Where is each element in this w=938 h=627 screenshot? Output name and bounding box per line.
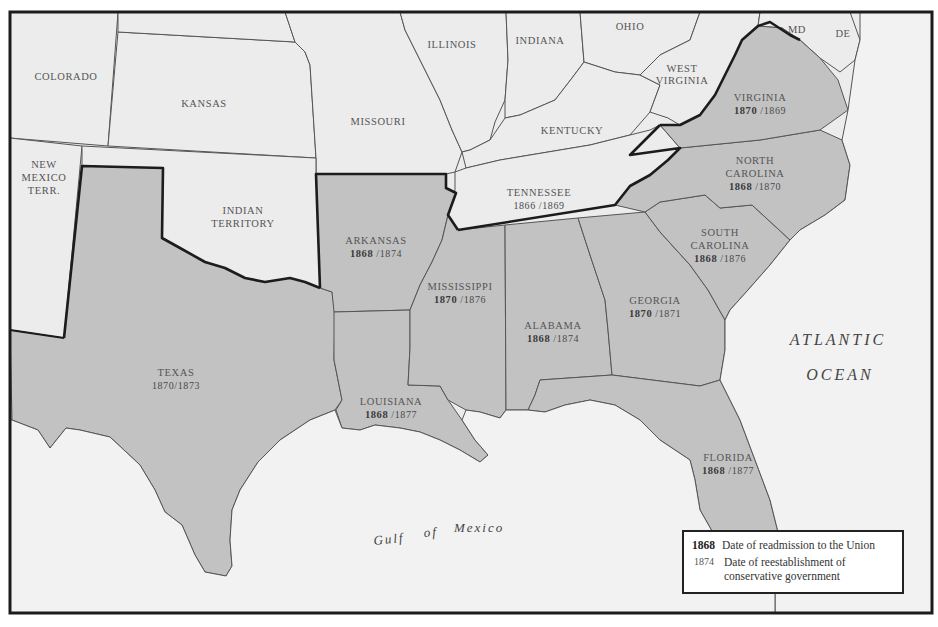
label-virginia-dates: 1870/1869 — [734, 105, 786, 116]
label-kentucky: KENTUCKY — [541, 125, 604, 136]
label-georgia: GEORGIA — [629, 295, 680, 306]
label-virginia: VIRGINIA — [734, 92, 787, 103]
map-legend: 1868 Date of readmission to the Union 18… — [682, 530, 904, 594]
label-new-mexico-3: TERR. — [28, 185, 60, 196]
label-mississippi: MISSISSIPPI — [428, 281, 493, 292]
arkansas-conservative: /1874 — [376, 248, 402, 259]
label-west-virginia-2: VIRGINIA — [656, 75, 709, 86]
mississippi-conservative: /1876 — [460, 294, 486, 305]
south-carolina-conservative: /1876 — [720, 253, 746, 264]
label-gulf-3: Mexico — [453, 520, 504, 535]
legend-desc-conservative: Date of reestablishment of conservative … — [724, 555, 896, 583]
virginia-readmission: 1870 — [734, 105, 757, 116]
label-florida-dates: 1868/1877 — [702, 465, 754, 476]
label-tennessee: TENNESSEE — [507, 187, 571, 198]
alabama-conservative: /1874 — [553, 333, 579, 344]
florida-readmission: 1868 — [702, 465, 725, 476]
region-kansas — [108, 32, 316, 158]
label-alabama: ALABAMA — [524, 320, 581, 331]
label-atlantic-1: ATLANTIC — [789, 331, 886, 348]
label-indiana: INDIANA — [515, 35, 564, 46]
label-south-carolina-1: SOUTH — [701, 227, 739, 238]
label-new-mexico-1: NEW — [31, 159, 57, 170]
label-illinois: ILLINOIS — [427, 39, 476, 50]
alabama-readmission: 1868 — [527, 333, 550, 344]
label-south-carolina-dates: 1868/1876 — [694, 253, 746, 264]
louisiana-readmission: 1868 — [365, 409, 388, 420]
label-georgia-dates: 1870/1871 — [629, 308, 681, 319]
label-louisiana-dates: 1868/1877 — [365, 409, 417, 420]
label-gulf-2: of — [423, 524, 439, 540]
virginia-conservative: /1869 — [760, 105, 786, 116]
south-carolina-readmission: 1868 — [694, 253, 717, 264]
label-indian-territory-1: INDIAN — [223, 205, 264, 216]
label-florida: FLORIDA — [703, 452, 753, 463]
label-delaware: DE — [835, 28, 850, 39]
legend-key-conservative: 1874 — [692, 555, 724, 569]
label-new-mexico-2: MEXICO — [21, 172, 66, 183]
tennessee-readmission: 1866 — [513, 200, 535, 211]
mississippi-readmission: 1870 — [434, 294, 457, 305]
north-carolina-conservative: /1870 — [755, 181, 781, 192]
label-south-carolina-2: CAROLINA — [690, 240, 749, 251]
label-maryland: MD — [788, 24, 806, 35]
legend-row-conservative: 1874 Date of reestablishment of conserva… — [692, 555, 896, 583]
label-indian-territory-2: TERRITORY — [211, 218, 275, 229]
label-texas: TEXAS — [158, 367, 195, 378]
label-arkansas: ARKANSAS — [345, 235, 406, 246]
tennessee-conservative: /1869 — [539, 200, 565, 211]
label-tennessee-dates: 1866/1869 — [513, 200, 564, 211]
arkansas-readmission: 1868 — [350, 248, 373, 259]
label-texas-dates: 1870/1873 — [152, 380, 200, 391]
label-colorado: COLORADO — [34, 71, 97, 82]
label-alabama-dates: 1868/1874 — [527, 333, 579, 344]
label-kansas: KANSAS — [181, 98, 227, 109]
label-arkansas-dates: 1868/1874 — [350, 248, 402, 259]
legend-row-readmission: 1868 Date of readmission to the Union — [692, 538, 896, 552]
georgia-conservative: /1871 — [655, 308, 681, 319]
label-missouri: MISSOURI — [351, 116, 406, 127]
georgia-readmission: 1870 — [629, 308, 652, 319]
legend-desc-readmission: Date of readmission to the Union — [722, 538, 896, 552]
label-west-virginia-1: WEST — [667, 63, 698, 74]
florida-conservative: /1877 — [728, 465, 754, 476]
label-ohio: OHIO — [616, 21, 645, 32]
label-north-carolina-dates: 1868/1870 — [729, 181, 781, 192]
louisiana-conservative: /1877 — [391, 409, 417, 420]
label-mississippi-dates: 1870/1876 — [434, 294, 486, 305]
label-atlantic-2: OCEAN — [806, 366, 873, 383]
label-north-carolina-1: NORTH — [736, 155, 775, 166]
label-louisiana: LOUISIANA — [360, 396, 423, 407]
legend-key-readmission: 1868 — [692, 538, 722, 552]
north-carolina-readmission: 1868 — [729, 181, 752, 192]
label-north-carolina-2: CAROLINA — [725, 168, 784, 179]
